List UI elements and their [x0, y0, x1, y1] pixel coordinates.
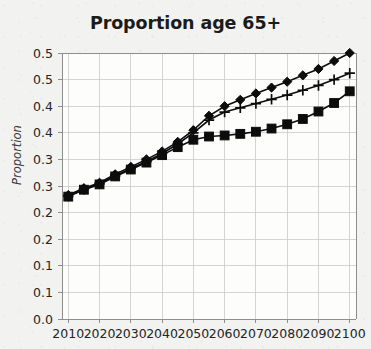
marker-square — [111, 172, 120, 181]
x-tick-label: 2020 — [84, 326, 116, 341]
x-tick-label: 2040 — [146, 326, 178, 341]
marker-square — [220, 131, 229, 140]
marker-square — [173, 143, 182, 152]
marker-square — [252, 127, 261, 136]
marker-square — [298, 115, 307, 124]
x-tick-label: 2010 — [52, 326, 84, 341]
marker-square — [267, 124, 276, 133]
marker-square — [79, 185, 88, 194]
x-tick-label: 2030 — [115, 326, 147, 341]
x-tick-labels: 2010202020302040205020602070208020902100 — [52, 326, 365, 341]
x-tick-label: 2100 — [334, 326, 366, 341]
plot-canvas: 0.00.10.10.20.20.30.30.40.40.50.5 201020… — [0, 0, 371, 349]
y-tick-label: 0.2 — [33, 205, 53, 220]
marker-square — [142, 158, 151, 167]
y-tick-label: 0.4 — [33, 125, 53, 140]
x-tick-label: 2090 — [303, 326, 335, 341]
y-tick-label: 0.1 — [33, 285, 53, 300]
y-tick-label: 0.4 — [33, 99, 53, 114]
marker-square — [64, 192, 73, 201]
marker-square — [95, 180, 104, 189]
marker-square — [330, 99, 339, 108]
y-tick-label: 0.5 — [33, 72, 53, 87]
marker-square — [158, 151, 167, 160]
y-tick-label: 0.3 — [33, 179, 53, 194]
y-tick-label: 0.1 — [33, 258, 53, 273]
y-tick-label: 0.3 — [33, 152, 53, 167]
x-tick-label: 2070 — [240, 326, 272, 341]
marker-square — [205, 132, 214, 141]
x-tick-label: 2050 — [177, 326, 209, 341]
y-tick-label: 0.5 — [33, 46, 53, 61]
x-tick-label: 2080 — [271, 326, 303, 341]
marker-square — [189, 135, 198, 144]
marker-square — [126, 165, 135, 174]
y-tick-label: 0.0 — [33, 312, 53, 327]
marker-square — [236, 129, 245, 138]
marker-square — [314, 107, 323, 116]
marker-square — [345, 87, 354, 96]
marker-square — [283, 120, 292, 129]
chart-figure: Proportion age 65+ Proportion 0.00.10.10… — [0, 0, 371, 349]
y-tick-labels: 0.00.10.10.20.20.30.30.40.40.50.5 — [33, 46, 53, 327]
y-tick-label: 0.2 — [33, 232, 53, 247]
x-tick-label: 2060 — [209, 326, 241, 341]
